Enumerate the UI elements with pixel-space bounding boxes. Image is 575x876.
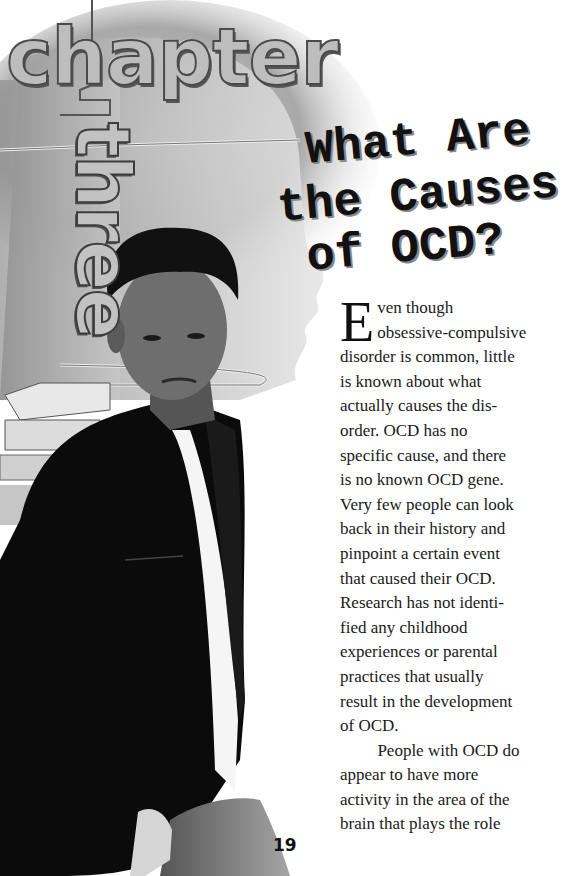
text-line: actually causes the dis- <box>340 394 572 419</box>
text-line: order. OCD has no <box>340 419 572 444</box>
text-line: activity in the area of the <box>340 788 572 813</box>
chapter-label: chapter <box>6 18 338 96</box>
text-line: that caused their OCD. <box>340 567 572 592</box>
text-line: obsessive-compulsive <box>340 321 572 346</box>
text-line: experiences or parental <box>340 640 572 665</box>
body-text: E ven though obsessive-compulsive disord… <box>340 296 572 837</box>
paragraph-2: People with OCD do appear to have more a… <box>340 739 572 837</box>
chapter-title: What Are the Causes of OCD? <box>219 118 559 280</box>
book-page: chapter three What Are the Causes of OCD… <box>0 0 575 876</box>
chapter-number: three <box>66 122 140 452</box>
text-line: disorder is common, little <box>340 345 572 370</box>
text-line: People with OCD do <box>340 739 572 764</box>
text-line: back in their history and <box>340 517 572 542</box>
text-line: fied any childhood <box>340 616 572 641</box>
text-line: ven though <box>340 296 572 321</box>
text-line: is known about what <box>340 370 572 395</box>
text-line: brain that plays the role <box>340 812 572 837</box>
text-line: is no known OCD gene. <box>340 468 572 493</box>
drop-cap: E <box>340 300 374 344</box>
text-line: Research has not identi- <box>340 591 572 616</box>
text-line: appear to have more <box>340 763 572 788</box>
text-line: pinpoint a certain event <box>340 542 572 567</box>
text-line: Very few people can look <box>340 493 572 518</box>
text-line: practices that usually <box>340 665 572 690</box>
paragraph-1: E ven though obsessive-compulsive disord… <box>340 296 572 739</box>
text-line: of OCD. <box>340 714 572 739</box>
text-line: specific cause, and there <box>340 444 572 469</box>
page-number: 19 <box>273 835 297 855</box>
text-line: result in the development <box>340 690 572 715</box>
